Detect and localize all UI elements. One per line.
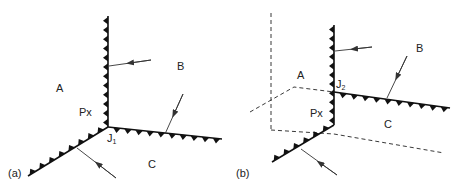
panel-b: A B J2 Px C (b) bbox=[236, 13, 450, 179]
thrust-tooth-icon bbox=[135, 130, 142, 135]
thrust-tooth-icon bbox=[329, 80, 334, 88]
panel-a: A B Px J1 C (a) bbox=[8, 16, 222, 179]
thrust-tooth-icon bbox=[329, 89, 334, 97]
region-label-a: A bbox=[297, 69, 305, 81]
thrust-tooth-icon bbox=[103, 17, 108, 25]
thrust-tooth-icon bbox=[103, 26, 108, 34]
thrust-tooth-icon bbox=[103, 109, 108, 117]
thrust-tooth-icon bbox=[169, 133, 176, 138]
thrust-tooth-icon bbox=[329, 71, 334, 79]
px-label: Px bbox=[310, 107, 323, 119]
thrust-tooth-icon bbox=[329, 99, 334, 107]
thrust-tooth-icon bbox=[329, 35, 334, 43]
thrust-tooth-icon bbox=[213, 138, 220, 143]
thrust-tooth-icon bbox=[329, 117, 334, 125]
vertical-thrust-line-b bbox=[329, 25, 334, 125]
thrust-tooth-icon bbox=[191, 136, 198, 141]
region-label-b: B bbox=[177, 60, 184, 72]
region-label-a: A bbox=[56, 82, 64, 94]
thrust-tooth-icon bbox=[329, 26, 334, 34]
diagram-canvas: A B Px J1 C (a) bbox=[0, 0, 465, 190]
thrust-tooth-icon bbox=[146, 131, 153, 136]
region-label-b: B bbox=[416, 42, 423, 54]
stress-arrows-a bbox=[77, 60, 183, 178]
thrust-tooth-icon bbox=[103, 119, 108, 127]
thrust-tooth-icon bbox=[103, 72, 108, 80]
region-label-c: C bbox=[148, 158, 156, 170]
thrust-tooth-icon bbox=[103, 63, 108, 71]
thrust-tooth-icon bbox=[329, 108, 334, 116]
thrust-tooth-icon bbox=[103, 91, 108, 99]
right-thrust-line-b bbox=[334, 92, 450, 112]
thrust-tooth-icon bbox=[329, 44, 334, 52]
thrust-tooth-icon bbox=[103, 35, 108, 43]
thrust-tooth-icon bbox=[124, 129, 131, 134]
vertical-thrust-line-a bbox=[103, 16, 108, 127]
junction-label: J1 bbox=[107, 132, 117, 145]
thrust-tooth-icon bbox=[329, 53, 334, 61]
thrust-tooth-icon bbox=[202, 137, 209, 142]
thrust-tooth-icon bbox=[103, 54, 108, 62]
region-label-c: C bbox=[384, 118, 392, 130]
dashed-outline-b bbox=[250, 13, 444, 153]
lower-left-thrust-line-a bbox=[28, 127, 108, 176]
thrust-tooth-icon bbox=[180, 135, 187, 140]
right-thrust-line-a bbox=[108, 127, 222, 143]
thrust-tooth-icon bbox=[113, 128, 120, 133]
thrust-tooth-icon bbox=[103, 82, 108, 90]
panel-tag-a: (a) bbox=[8, 167, 21, 179]
junction-label: J2 bbox=[336, 78, 346, 91]
thrust-tooth-icon bbox=[329, 62, 334, 69]
thrust-tooth-icon bbox=[103, 100, 108, 108]
thrust-tooth-icon bbox=[157, 132, 164, 137]
panel-tag-b: (b) bbox=[236, 167, 249, 179]
px-label: Px bbox=[79, 106, 92, 118]
thrust-tooth-icon bbox=[103, 45, 108, 53]
